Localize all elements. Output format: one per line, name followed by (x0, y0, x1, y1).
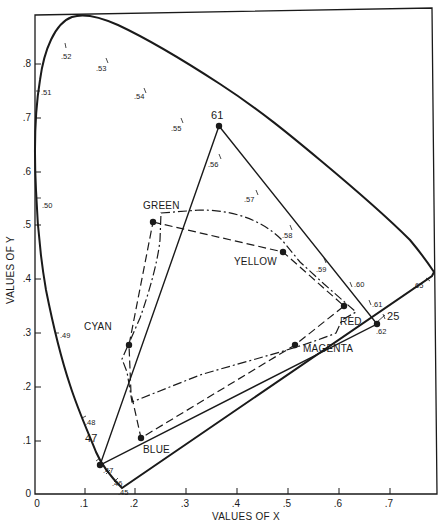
label-25-leader (377, 315, 385, 322)
y-tick-label: .4 (23, 273, 32, 284)
point-red (341, 303, 347, 309)
point-magenta (292, 342, 298, 348)
wavelength-label: .47 (103, 466, 113, 475)
label-yellow: YELLOW (234, 256, 277, 267)
wavelength-label: .51 (41, 88, 51, 97)
y-tick-label: .6 (23, 166, 32, 177)
x-tick-label: .1 (80, 498, 89, 509)
point-cyan (126, 342, 132, 348)
wavelength-labels: .45 .46 .47 .48 .49 .50 .51 .52 .53 .54 … (41, 52, 423, 497)
y-tick-label: 0 (25, 488, 31, 499)
wavelength-label: .60 (354, 280, 364, 289)
wavelength-label: .65 (413, 281, 423, 290)
y-tick-label: .8 (23, 58, 32, 69)
y-tick-label: .1 (23, 435, 32, 446)
y-tick-label: .7 (23, 112, 32, 123)
x-axis-title: VALUES OF X (212, 511, 280, 521)
y-tick-label: .3 (23, 327, 32, 338)
wavelength-ticks (36, 43, 430, 482)
wavelength-label: .52 (61, 52, 71, 61)
wavelength-label: .54 (134, 92, 144, 101)
point-61 (216, 123, 222, 129)
wavelength-label: .61 (372, 300, 382, 309)
x-tick-label: .4 (232, 498, 241, 509)
label-magenta: MAGENTA (303, 343, 353, 354)
wavelength-label: .50 (42, 201, 52, 210)
chromaticity-diagram: 0 .1 .2 .3 .4 .5 .6 .7 .8 0 .1 .2 .3 .4 … (0, 0, 441, 521)
wavelength-label: .59 (316, 265, 326, 274)
x-tick-label: 0 (34, 498, 40, 509)
wavelength-label: .46 (112, 479, 122, 488)
label-red: RED (340, 316, 362, 327)
point-47 (97, 462, 103, 468)
wavelength-label: .58 (282, 231, 292, 240)
label-25: 25 (387, 310, 400, 322)
wavelength-label: .56 (208, 160, 218, 169)
dash-dot-gamut (122, 210, 356, 402)
x-tick-label: .3 (181, 498, 190, 509)
x-tick-label: .2 (130, 498, 139, 509)
primary-triangle (100, 126, 377, 465)
y-tick-label: .2 (23, 381, 32, 392)
point-yellow (280, 249, 286, 255)
label-blue: BLUE (143, 444, 170, 455)
label-cyan: CYAN (84, 321, 112, 332)
label-green: GREEN (143, 200, 180, 211)
y-tick-label: .5 (23, 219, 32, 230)
y-axis-title: VALUES OF Y (5, 236, 16, 304)
x-tick-labels: 0 .1 .2 .3 .4 .5 .6 .7 (34, 498, 393, 509)
x-tick-label: .6 (334, 498, 343, 509)
wavelength-label: .45 (118, 488, 128, 497)
wavelength-label: .48 (85, 418, 95, 427)
x-tick-label: .7 (385, 498, 394, 509)
label-47: 47 (85, 432, 98, 444)
label-61: 61 (211, 109, 224, 121)
y-tick-labels: 0 .1 .2 .3 .4 .5 .6 .7 .8 (23, 58, 32, 499)
wavelength-label: .49 (60, 331, 70, 340)
point-green (150, 219, 156, 225)
wavelength-label: .55 (171, 124, 181, 133)
dashed-gamut (129, 222, 344, 438)
point-blue (138, 435, 144, 441)
point-labels: 61 47 25 GREEN YELLOW RED MAGENTA BLUE C… (84, 109, 400, 455)
wavelength-label: .62 (376, 327, 386, 336)
wavelength-label: .53 (96, 64, 106, 73)
x-axis (85, 488, 390, 494)
wavelength-label: .57 (244, 195, 254, 204)
x-tick-label: .5 (283, 498, 292, 509)
